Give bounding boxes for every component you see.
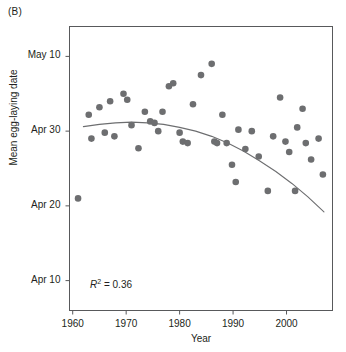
- data-point: [223, 140, 230, 147]
- data-point: [255, 153, 262, 160]
- data-point: [159, 108, 166, 115]
- data-point: [320, 171, 327, 178]
- data-point: [315, 135, 322, 142]
- axes-frame: [70, 27, 333, 311]
- data-point: [107, 98, 114, 105]
- x-tick-label: 1960: [48, 318, 98, 329]
- data-point: [124, 96, 131, 103]
- data-point: [96, 104, 103, 111]
- data-point: [294, 124, 301, 131]
- x-tick-label: 2000: [262, 318, 312, 329]
- x-tick-marks: [73, 311, 287, 315]
- data-point: [232, 179, 239, 186]
- fit-curve: [83, 122, 324, 212]
- data-point: [198, 72, 205, 79]
- data-point: [155, 128, 162, 135]
- data-point: [292, 188, 299, 195]
- data-point: [299, 105, 306, 112]
- data-point: [85, 111, 92, 118]
- data-point: [265, 188, 272, 195]
- figure-panel-b: (B) Mean egg-laying date Year Apr 10Apr …: [0, 0, 346, 352]
- data-point: [242, 146, 249, 153]
- data-point: [208, 61, 215, 68]
- data-point: [176, 129, 183, 136]
- data-point: [128, 122, 135, 129]
- data-point: [282, 138, 289, 145]
- x-tick-label: 1990: [208, 318, 258, 329]
- r-squared-annotation: R2 = 0.36: [90, 278, 132, 290]
- y-tick-label: Apr 10: [0, 274, 61, 285]
- data-point: [270, 133, 277, 140]
- data-point: [184, 140, 191, 147]
- data-point: [308, 156, 315, 163]
- y-tick-label: May 10: [0, 49, 61, 60]
- plot-frame: [70, 27, 333, 311]
- x-tick-label: 1970: [101, 318, 151, 329]
- y-tick-marks: [66, 56, 70, 280]
- data-point: [101, 129, 108, 136]
- fit-curve-line: [83, 122, 324, 212]
- data-point: [219, 111, 226, 118]
- data-point: [151, 120, 158, 127]
- data-point: [235, 126, 242, 133]
- r-value: = 0.36: [101, 279, 132, 290]
- y-tick-label: Apr 20: [0, 199, 61, 210]
- data-point: [190, 101, 197, 108]
- data-point: [135, 145, 142, 152]
- data-point: [142, 108, 149, 115]
- data-point: [88, 135, 95, 142]
- data-point: [214, 140, 221, 147]
- data-point: [277, 94, 284, 101]
- data-point: [302, 140, 309, 147]
- data-point: [170, 80, 177, 87]
- data-point: [286, 149, 293, 156]
- data-point: [248, 128, 255, 135]
- y-tick-label: Apr 30: [0, 124, 61, 135]
- data-point: [229, 161, 236, 168]
- data-point: [75, 195, 82, 202]
- x-tick-label: 1980: [155, 318, 205, 329]
- data-point: [111, 133, 118, 140]
- data-point: [120, 90, 127, 97]
